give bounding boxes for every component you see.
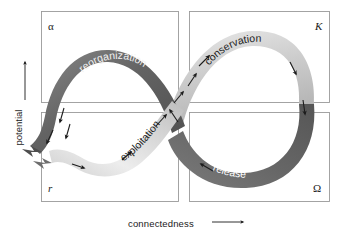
figure-canvas: reorganization exploitation conservation… — [0, 0, 348, 241]
quadrant-symbol-omega: Ω — [313, 182, 321, 194]
x-axis-label: connectedness — [128, 218, 194, 229]
quadrant-symbol-K: K — [315, 20, 322, 32]
quadrant-symbol-alpha: α — [48, 20, 54, 32]
y-axis-label: potential — [13, 98, 24, 158]
adaptive-cycle-figure: reorganization exploitation conservation… — [0, 0, 348, 241]
y-axis: potential — [10, 42, 24, 182]
quadrant-symbol-r: r — [48, 182, 52, 194]
flow-arrow-reorganization-2 — [60, 108, 64, 122]
cycle-ribbon — [22, 31, 314, 188]
flow-arrow-reorganization-4 — [66, 124, 70, 138]
exit-arrow-lower — [33, 158, 52, 169]
